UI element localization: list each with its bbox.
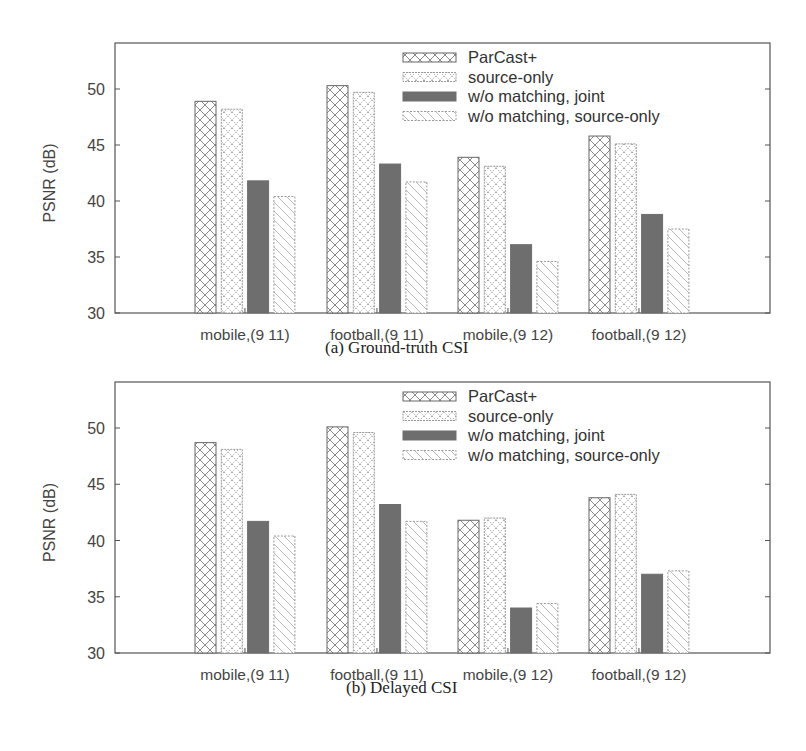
y-tick-label: 40 — [87, 533, 105, 550]
plot-area: 3035404550PSNR (dB)mobile,(9 11)football… — [41, 382, 770, 683]
legend-swatch — [403, 392, 456, 401]
legend-label: w/o matching, source-only — [467, 446, 660, 464]
legend-swatch — [403, 412, 456, 421]
chart-caption-b: (b) Delayed CSI — [346, 678, 457, 698]
x-tick-label: football,(9 12) — [592, 666, 687, 683]
bar — [274, 536, 295, 653]
bar — [406, 521, 427, 653]
bar — [221, 449, 242, 653]
bar — [484, 518, 505, 653]
legend-swatch — [403, 451, 456, 460]
bar — [380, 505, 401, 654]
bar — [511, 608, 532, 653]
y-tick-label: 30 — [87, 645, 105, 662]
y-tick-label: 45 — [87, 476, 105, 493]
bar — [615, 494, 636, 653]
legend: ParCast+source-onlyw/o matching, jointw/… — [403, 387, 660, 464]
legend-swatch — [403, 431, 456, 440]
x-tick-label: mobile,(9 11) — [200, 666, 289, 683]
bar — [458, 520, 479, 653]
bar — [642, 574, 663, 653]
chart-panel-b: 3035404550PSNR (dB)mobile,(9 11)football… — [0, 0, 806, 751]
legend-label: source-only — [468, 407, 554, 425]
bar — [353, 433, 374, 654]
bar-chart-b: 3035404550PSNR (dB)mobile,(9 11)football… — [0, 0, 806, 751]
bar — [589, 498, 610, 653]
y-tick-label: 50 — [87, 420, 105, 437]
y-axis-label: PSNR (dB) — [41, 483, 58, 562]
bar — [195, 443, 216, 653]
bar — [327, 427, 348, 653]
legend-label: ParCast+ — [468, 387, 537, 405]
bar — [248, 521, 269, 653]
y-tick-label: 35 — [87, 589, 105, 606]
bar — [537, 604, 558, 654]
x-tick-label: mobile,(9 12) — [463, 666, 553, 683]
bar — [668, 571, 689, 653]
legend-label: w/o matching, joint — [467, 426, 605, 444]
